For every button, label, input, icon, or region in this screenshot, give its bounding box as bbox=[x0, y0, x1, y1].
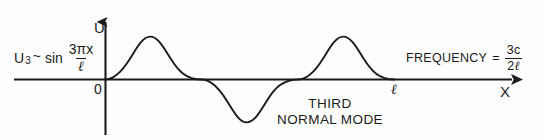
frequency-equation: FREQUENCY = 3c 2ℓ bbox=[406, 44, 523, 73]
amplitude-fraction-numerator: 3πx bbox=[67, 42, 95, 58]
frequency-fraction-denominator: 2ℓ bbox=[505, 58, 522, 73]
physics-diagram-figure: U X 0 ℓ U3 ~ sin 3πx ℓ FREQUENCY = 3c 2ℓ… bbox=[0, 0, 544, 140]
frequency-denominator-symbol: ℓ bbox=[515, 59, 521, 73]
frequency-denominator-coefficient: 2 bbox=[507, 59, 514, 73]
amplitude-fraction-denominator: ℓ bbox=[76, 58, 86, 75]
y-axis-label: U bbox=[94, 20, 105, 35]
frequency-label: FREQUENCY bbox=[406, 52, 487, 65]
mode-caption-line-1: THIRD bbox=[277, 96, 383, 112]
amplitude-fraction: 3πx ℓ bbox=[67, 42, 95, 74]
frequency-fraction: 3c 2ℓ bbox=[505, 44, 523, 73]
length-marker-label: ℓ bbox=[391, 83, 397, 97]
amplitude-function-name: sin bbox=[45, 51, 63, 65]
x-axis-label: X bbox=[500, 84, 510, 99]
mode-caption: THIRD NORMAL MODE bbox=[277, 96, 383, 129]
frequency-equals-sign: = bbox=[492, 52, 500, 65]
mode-caption-line-2: NORMAL MODE bbox=[277, 112, 383, 128]
amplitude-symbol: U bbox=[14, 51, 24, 65]
frequency-fraction-numerator: 3c bbox=[505, 44, 523, 58]
amplitude-relation-sign: ~ bbox=[33, 49, 41, 63]
origin-label: 0 bbox=[94, 82, 102, 96]
amplitude-equation: U3 ~ sin 3πx ℓ bbox=[14, 42, 95, 74]
amplitude-subscript: 3 bbox=[25, 56, 31, 66]
